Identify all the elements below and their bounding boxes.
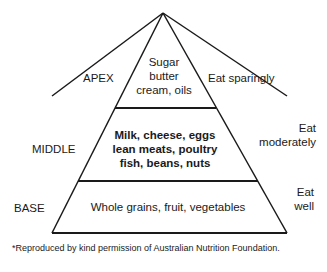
footnote: *Reproduced by kind permission of Austra… (12, 242, 312, 254)
middle-label: MIDDLE (32, 142, 75, 156)
base-label: BASE (14, 201, 45, 215)
apex-label: APEX (83, 71, 114, 85)
apex-advice: Eat sparingly (208, 71, 274, 85)
apex-foods: Sugar butter cream, oils (128, 55, 200, 97)
middle-advice: Eat moderately (244, 121, 316, 149)
base-foods: Whole grains, fruit, vegetables (72, 200, 264, 214)
middle-foods: Milk, cheese, eggs lean meats, poultry f… (100, 128, 230, 170)
base-advice: Eat well (280, 185, 314, 213)
